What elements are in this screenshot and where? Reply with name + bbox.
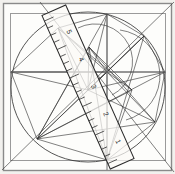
construction-drawing: 12345 xyxy=(0,0,175,174)
figure-canvas: 12345 Geometric construction with ruler xyxy=(0,0,175,174)
